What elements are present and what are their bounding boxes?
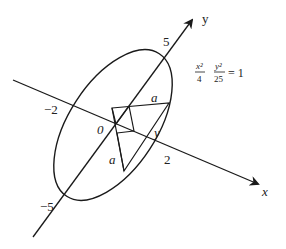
side-a-left-label: a (109, 152, 116, 167)
svg-text:y²: y² (214, 61, 222, 71)
ellipse-curve (30, 30, 196, 221)
svg-text:25: 25 (214, 74, 224, 84)
tick-x-2: 2 (164, 152, 171, 167)
svg-text:= 1: = 1 (228, 66, 244, 80)
svg-text:x²: x² (195, 61, 203, 71)
inscribed-triangle (112, 103, 169, 171)
tick-y-5: 5 (163, 34, 170, 49)
ellipse-equation: x² 4 y² 25 = 1 (195, 61, 244, 84)
tick-y-neg5: −5 (40, 199, 54, 214)
origin-label: 0 (97, 122, 104, 137)
svg-text:4: 4 (197, 74, 202, 84)
ellipse-diagram: y x 5 −2 0 2 −5 a a y x² 4 y² 25 = 1 (0, 0, 286, 249)
x-axis-label: x (261, 184, 268, 199)
tick-x-neg2: −2 (44, 102, 58, 117)
side-a-top-label: a (151, 90, 158, 105)
y-axis-label: y (202, 11, 209, 26)
y-axis (33, 20, 192, 237)
point-y-label: y (152, 125, 160, 140)
